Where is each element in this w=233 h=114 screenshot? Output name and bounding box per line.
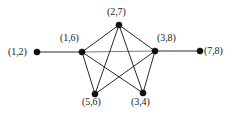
graph-edge <box>82 52 143 93</box>
graph-node-label: (1,6) <box>60 33 79 43</box>
graph-edge <box>95 51 155 94</box>
graph-node[interactable] <box>197 48 203 54</box>
graph-node-label: (1,2) <box>8 47 27 57</box>
graph-edge <box>143 51 155 93</box>
graph-node[interactable] <box>34 49 40 55</box>
graph-edge <box>119 25 155 51</box>
graph-node[interactable] <box>152 48 158 54</box>
graph-node-label: (2,7) <box>107 7 126 17</box>
graph-edge <box>82 52 95 94</box>
graph-edge <box>82 51 155 52</box>
graph-node-label: (3,4) <box>131 97 150 107</box>
graph-node[interactable] <box>79 49 85 55</box>
graph-edge <box>119 25 143 93</box>
graph-edge <box>95 25 119 94</box>
graph-node-label: (7,8) <box>204 46 223 56</box>
graph-node[interactable] <box>116 22 122 28</box>
graph-canvas <box>0 0 233 114</box>
graph-edge <box>82 25 119 52</box>
graph-node-label: (3,8) <box>157 33 176 43</box>
graph-figure: (1,2)(1,6)(2,7)(3,8)(7,8)(5,6)(3,4) <box>0 0 233 114</box>
graph-node-label: (5,6) <box>82 97 101 107</box>
